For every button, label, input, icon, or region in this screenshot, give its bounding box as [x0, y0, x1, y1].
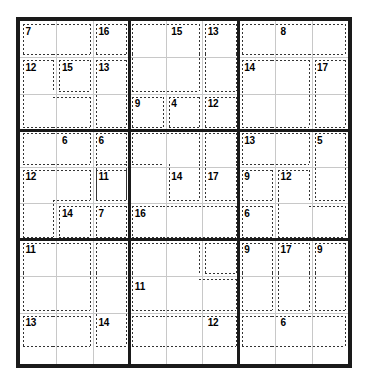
sudoku-cell-r2c6[interactable]: [202, 57, 238, 93]
sudoku-cell-r5c4[interactable]: [129, 167, 165, 203]
sudoku-cell-r7c5[interactable]: [166, 240, 202, 276]
sudoku-cell-r9c5[interactable]: [166, 313, 202, 349]
sudoku-cell-r5c7[interactable]: [239, 167, 275, 203]
sudoku-cell-r9c3[interactable]: [93, 313, 129, 349]
sudoku-cell-r9c2[interactable]: [56, 313, 92, 349]
sudoku-cell-r9c7[interactable]: [239, 313, 275, 349]
sudoku-cell-r4c6[interactable]: [202, 130, 238, 166]
sudoku-cell-r6c2[interactable]: [56, 203, 92, 239]
sudoku-cell-r8c8[interactable]: [275, 276, 311, 312]
sudoku-cell-r7c8[interactable]: [275, 240, 311, 276]
sudoku-cell-r5c5[interactable]: [166, 167, 202, 203]
sudoku-cell-r6c9[interactable]: [312, 203, 348, 239]
sudoku-cell-r1c7[interactable]: [239, 21, 275, 57]
sudoku-cell-r3c9[interactable]: [312, 94, 348, 130]
sudoku-cell-r6c5[interactable]: [166, 203, 202, 239]
sudoku-cell-r7c2[interactable]: [56, 240, 92, 276]
sudoku-cell-r1c4[interactable]: [129, 21, 165, 57]
sudoku-cell-r3c7[interactable]: [239, 94, 275, 130]
grid-inner: 7161215131513941281417661211147141716135…: [20, 21, 348, 364]
sudoku-cell-r6c4[interactable]: [129, 203, 165, 239]
sudoku-cell-r9c9[interactable]: [312, 313, 348, 349]
sudoku-cell-r1c3[interactable]: [93, 21, 129, 57]
sudoku-cell-r1c5[interactable]: [166, 21, 202, 57]
sudoku-cell-r8c4[interactable]: [129, 276, 165, 312]
sudoku-cell-r2c8[interactable]: [275, 57, 311, 93]
sudoku-cell-r1c1[interactable]: [20, 21, 56, 57]
sudoku-cell-r7c7[interactable]: [239, 240, 275, 276]
sudoku-cell-r4c3[interactable]: [93, 130, 129, 166]
sudoku-cell-r8c7[interactable]: [239, 276, 275, 312]
sudoku-cell-r7c6[interactable]: [202, 240, 238, 276]
sudoku-cell-r2c2[interactable]: [56, 57, 92, 93]
sudoku-cell-r5c9[interactable]: [312, 167, 348, 203]
sudoku-cell-r2c7[interactable]: [239, 57, 275, 93]
sudoku-cell-r7c9[interactable]: [312, 240, 348, 276]
sudoku-cell-r6c7[interactable]: [239, 203, 275, 239]
sudoku-cell-r9c4[interactable]: [129, 313, 165, 349]
sudoku-cell-r6c3[interactable]: [93, 203, 129, 239]
sudoku-cell-r7c1[interactable]: [20, 240, 56, 276]
sudoku-cell-r8c5[interactable]: [166, 276, 202, 312]
sudoku-cell-r8c2[interactable]: [56, 276, 92, 312]
sudoku-cell-r3c1[interactable]: [20, 94, 56, 130]
sudoku-cell-r3c3[interactable]: [93, 94, 129, 130]
sudoku-cell-r1c8[interactable]: [275, 21, 311, 57]
sudoku-cell-r3c2[interactable]: [56, 94, 92, 130]
sudoku-cell-r8c6[interactable]: [202, 276, 238, 312]
sudoku-cell-r5c3[interactable]: [93, 167, 129, 203]
sudoku-cell-r5c6[interactable]: [202, 167, 238, 203]
sudoku-cell-r4c2[interactable]: [56, 130, 92, 166]
sudoku-cell-r6c1[interactable]: [20, 203, 56, 239]
sudoku-cell-r6c8[interactable]: [275, 203, 311, 239]
sudoku-cell-r5c1[interactable]: [20, 167, 56, 203]
sudoku-cell-r3c4[interactable]: [129, 94, 165, 130]
sudoku-cell-r8c1[interactable]: [20, 276, 56, 312]
sudoku-cell-r4c7[interactable]: [239, 130, 275, 166]
sudoku-cell-r4c9[interactable]: [312, 130, 348, 166]
sudoku-cell-r2c4[interactable]: [129, 57, 165, 93]
sudoku-cell-r5c2[interactable]: [56, 167, 92, 203]
sudoku-cell-r8c9[interactable]: [312, 276, 348, 312]
sudoku-cell-r7c3[interactable]: [93, 240, 129, 276]
sudoku-cell-r9c1[interactable]: [20, 313, 56, 349]
sudoku-cell-r2c9[interactable]: [312, 57, 348, 93]
sudoku-cell-r4c8[interactable]: [275, 130, 311, 166]
sudoku-cell-r5c8[interactable]: [275, 167, 311, 203]
sudoku-cell-r1c2[interactable]: [56, 21, 92, 57]
sudoku-cell-r6c6[interactable]: [202, 203, 238, 239]
sudoku-cell-r4c5[interactable]: [166, 130, 202, 166]
sudoku-cell-r4c4[interactable]: [129, 130, 165, 166]
sudoku-cell-r8c3[interactable]: [93, 276, 129, 312]
sudoku-cell-r3c8[interactable]: [275, 94, 311, 130]
sudoku-cell-r1c6[interactable]: [202, 21, 238, 57]
sudoku-cell-r4c1[interactable]: [20, 130, 56, 166]
sudoku-cell-r2c5[interactable]: [166, 57, 202, 93]
sudoku-board[interactable]: 7161215131513941281417661211147141716135…: [16, 17, 352, 368]
sudoku-cell-r1c9[interactable]: [312, 21, 348, 57]
sudoku-cell-r7c4[interactable]: [129, 240, 165, 276]
sudoku-cell-r9c6[interactable]: [202, 313, 238, 349]
sudoku-cell-r3c5[interactable]: [166, 94, 202, 130]
killer-sudoku-page: 7161215131513941281417661211147141716135…: [0, 0, 370, 389]
sudoku-cell-r2c3[interactable]: [93, 57, 129, 93]
sudoku-cell-r3c6[interactable]: [202, 94, 238, 130]
sudoku-cell-r9c8[interactable]: [275, 313, 311, 349]
sudoku-cell-r2c1[interactable]: [20, 57, 56, 93]
